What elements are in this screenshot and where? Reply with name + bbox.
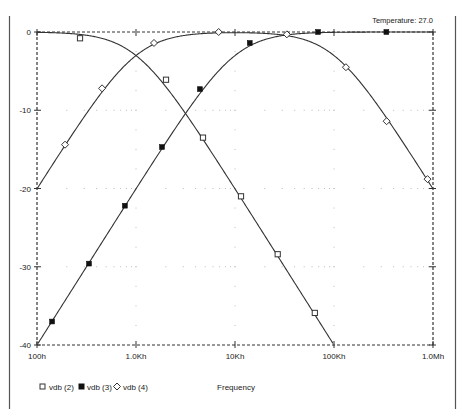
legend-item-vdb4: vdb (4) <box>114 383 149 392</box>
grid-dot <box>235 149 236 150</box>
grid-dot <box>225 110 226 111</box>
grid-dot <box>84 266 85 267</box>
grid-dot <box>136 325 137 326</box>
marker-square-filled <box>160 145 165 150</box>
grid-dot <box>165 110 166 111</box>
marker-square-filled <box>122 203 127 208</box>
marker-square-open <box>200 135 205 140</box>
markers <box>50 29 431 324</box>
grid-dot <box>312 188 313 189</box>
grid-dot <box>423 110 424 111</box>
x-axis-label: Frequency <box>217 383 255 392</box>
marker-diamond-open <box>99 85 106 92</box>
grid-dot <box>334 71 335 72</box>
grid-dot <box>411 266 412 267</box>
grid-dot <box>329 188 330 189</box>
grid-dot <box>294 188 295 189</box>
grid-dot <box>235 129 236 130</box>
legend-square-open-icon <box>40 384 45 389</box>
grid-dot <box>312 110 313 111</box>
grid-dot <box>136 286 137 287</box>
x-tick-label: 100Kh <box>322 352 345 361</box>
grid-dot <box>411 110 412 111</box>
grid-dot <box>165 188 166 189</box>
curves <box>37 32 433 343</box>
grid-dot <box>428 266 429 267</box>
grid-dot <box>183 266 184 267</box>
grid-dot <box>264 266 265 267</box>
marker-square-open <box>77 36 82 41</box>
grid-dot <box>126 266 127 267</box>
grid-dot <box>66 110 67 111</box>
grid-dot <box>230 266 231 267</box>
legend-square-filled-icon <box>79 384 84 389</box>
grid-dot <box>334 325 335 326</box>
grid-dot <box>136 305 137 306</box>
grid-dot <box>131 266 132 267</box>
grid-dot <box>235 247 236 248</box>
grid-dot <box>114 188 115 189</box>
grid-dot <box>235 227 236 228</box>
grid-dot <box>213 110 214 111</box>
grid-dot <box>84 110 85 111</box>
grid-dot <box>403 110 404 111</box>
grid-dot <box>393 188 394 189</box>
grid-dot <box>136 247 137 248</box>
grid-dot <box>264 110 265 111</box>
grid-dot <box>136 208 137 209</box>
grid-dot <box>131 188 132 189</box>
y-tick-label: -30 <box>19 263 31 272</box>
grid-dot <box>106 266 107 267</box>
grid-dot <box>120 266 121 267</box>
series-line-0 <box>37 32 333 343</box>
marker-square-filled <box>316 30 321 35</box>
marker-square-filled <box>87 261 92 266</box>
grid-dot <box>235 286 236 287</box>
grid-dot <box>334 168 335 169</box>
grid-dot <box>334 286 335 287</box>
grid-dot <box>318 266 319 267</box>
grid-dot <box>96 266 97 267</box>
grid-dot <box>329 266 330 267</box>
grid-dot <box>324 110 325 111</box>
marker-diamond-open <box>383 118 390 125</box>
grid-dot <box>195 188 196 189</box>
grid-dot <box>363 266 364 267</box>
grid-dot <box>225 188 226 189</box>
grid-dot <box>318 188 319 189</box>
grid-dot <box>136 227 137 228</box>
x-tick-label: 10Kh <box>226 352 245 361</box>
y-tick-label: -10 <box>19 106 31 115</box>
grid-dot <box>136 71 137 72</box>
marker-square-filled <box>247 41 252 46</box>
marker-diamond-open <box>215 29 222 36</box>
grid-dot <box>334 188 335 189</box>
marker-square-open <box>275 252 280 257</box>
legend-item-vdb2: vdb (2) <box>40 383 74 392</box>
grid-dot <box>363 110 364 111</box>
grid-dot <box>195 266 196 267</box>
grid-dot <box>219 266 220 267</box>
grid-dot <box>106 110 107 111</box>
grid-dot <box>334 227 335 228</box>
grid-dot <box>136 149 137 150</box>
grid-dot <box>393 110 394 111</box>
legend-label-vdb2: vdb (2) <box>49 383 74 392</box>
grid-dot <box>393 266 394 267</box>
grid-dot <box>66 188 67 189</box>
grid-dot <box>334 51 335 52</box>
y-tick-label: -20 <box>19 185 31 194</box>
grid-dot <box>205 266 206 267</box>
grid-dot <box>120 110 121 111</box>
grid-dot <box>235 110 236 111</box>
grid-dot <box>235 51 236 52</box>
legend-label-vdb3: vdb (3) <box>87 383 112 392</box>
grid-dot <box>417 110 418 111</box>
grid-dot <box>230 188 231 189</box>
grid-dot <box>235 305 236 306</box>
grid-dot <box>304 188 305 189</box>
grid-dot <box>183 188 184 189</box>
x-tick-label: 1.0Mh <box>422 352 444 361</box>
grid-dot <box>205 110 206 111</box>
grid-dot <box>324 266 325 267</box>
